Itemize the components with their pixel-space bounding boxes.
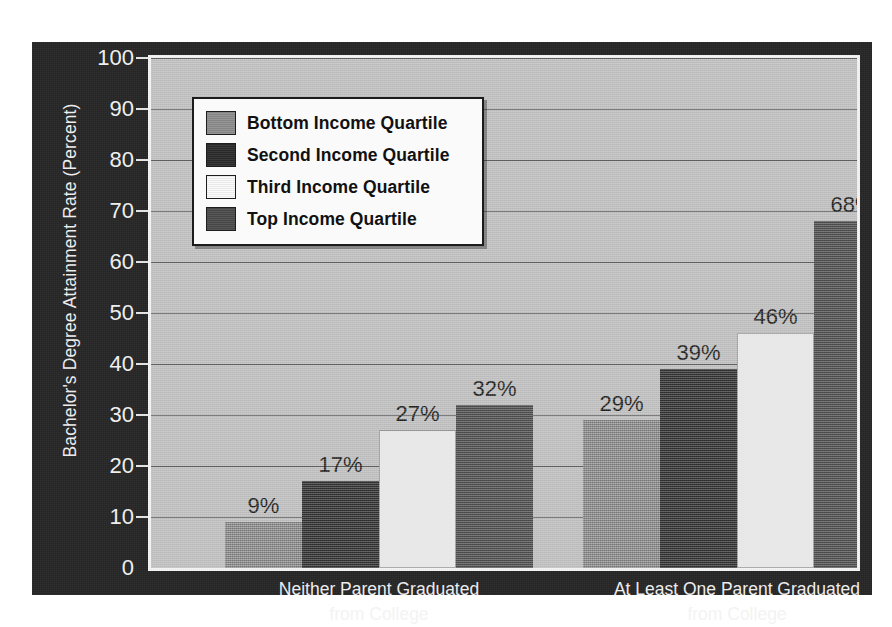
bar-texture [225, 522, 302, 568]
bar[interactable] [814, 221, 860, 568]
y-tick-label: 70 [110, 200, 134, 222]
bar[interactable] [225, 522, 302, 568]
legend-item[interactable]: Bottom Income Quartile [206, 107, 472, 139]
legend-swatch-texture [207, 112, 235, 134]
legend-item[interactable]: Third Income Quartile [206, 171, 472, 203]
bar[interactable] [456, 405, 533, 568]
y-tick-label: 10 [110, 506, 134, 528]
legend: Bottom Income QuartileSecond Income Quar… [192, 97, 484, 246]
y-tick-label: 0 [122, 557, 134, 579]
y-tick-label: 20 [110, 455, 134, 477]
bar-texture [302, 481, 379, 568]
bar-texture [738, 334, 813, 567]
y-tick-label: 30 [110, 404, 134, 426]
y-tick-label: 90 [110, 98, 134, 120]
legend-swatch-icon [206, 175, 236, 199]
legend-swatch-texture [207, 144, 235, 166]
bar-group: 29%39%46%68% [583, 58, 860, 568]
bar-texture [456, 405, 533, 568]
y-tick-label: 40 [110, 353, 134, 375]
y-tick-label: 60 [110, 251, 134, 273]
y-tick-label: 100 [97, 47, 134, 69]
x-axis-category-labels: Neither Parent Graduatedfrom CollegeAt L… [148, 575, 860, 627]
legend-label: Third Income Quartile [247, 177, 430, 198]
bar-texture [583, 420, 660, 568]
bar-texture [660, 369, 737, 568]
bar[interactable] [583, 420, 660, 568]
legend-swatch-texture [207, 208, 235, 230]
legend-label: Second Income Quartile [247, 145, 450, 166]
bar-value-label: 29% [599, 393, 643, 415]
bar-value-label: 27% [395, 403, 439, 425]
legend-label: Bottom Income Quartile [247, 113, 448, 134]
legend-item[interactable]: Top Income Quartile [206, 203, 472, 235]
y-axis-tick-labels: 0102030405060708090100 [78, 42, 150, 595]
legend-swatch-icon [206, 207, 236, 231]
bar-value-label: 68% [830, 194, 860, 216]
bar-value-label: 32% [472, 378, 516, 400]
bar-texture [814, 221, 860, 568]
y-tick-label: 80 [110, 149, 134, 171]
chart-frame: Bachelor's Degree Attainment Rate (Perce… [32, 42, 872, 595]
x-category-label-line: At Least One Parent Graduated [523, 577, 892, 602]
x-category-label: At Least One Parent Graduatedfrom Colleg… [523, 577, 892, 627]
bar-texture [380, 431, 455, 567]
bar-value-label: 39% [676, 342, 720, 364]
y-tick-label: 50 [110, 302, 134, 324]
bar-value-label: 46% [753, 306, 797, 328]
bar[interactable] [302, 481, 379, 568]
bar[interactable] [379, 430, 456, 568]
legend-label: Top Income Quartile [247, 209, 417, 230]
legend-swatch-icon [206, 111, 236, 135]
bar[interactable] [737, 333, 814, 568]
x-category-label-line: from College [523, 602, 892, 627]
bar-value-label: 9% [248, 495, 280, 517]
legend-swatch-icon [206, 143, 236, 167]
bar-value-label: 17% [318, 454, 362, 476]
legend-item[interactable]: Second Income Quartile [206, 139, 472, 171]
legend-swatch-texture [207, 176, 235, 198]
bar[interactable] [660, 369, 737, 568]
